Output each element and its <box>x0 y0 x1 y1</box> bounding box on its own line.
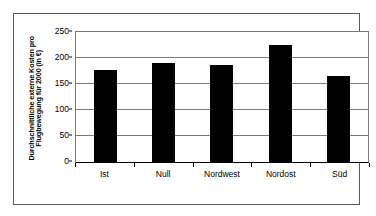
bar-nordost[interactable] <box>269 45 292 162</box>
y-axis-tick-mark <box>69 83 72 84</box>
bar-nordwest[interactable] <box>210 65 233 162</box>
x-axis-tick-label-nordost: Nordost <box>253 169 309 179</box>
chart-figure: Durchschnittliche externe Kosten pro Flu… <box>13 13 360 205</box>
x-axis-tick-mark <box>251 163 252 167</box>
x-axis-tick-mark <box>75 163 76 167</box>
bar-süd[interactable] <box>327 76 350 162</box>
x-axis-tick-labels: IstNullNordwestNordostSüd <box>75 163 369 185</box>
y-axis-tick-label: 50 <box>60 130 69 140</box>
bar-series <box>76 32 368 162</box>
y-axis-tick-mark <box>69 135 72 136</box>
y-axis-tick-label: 100 <box>55 104 69 114</box>
x-axis-tick-label-ist: Ist <box>76 169 132 179</box>
y-axis-tick-mark <box>69 57 72 58</box>
y-axis-tick-label: 250 <box>55 26 69 36</box>
y-axis-tick-label: 150 <box>55 78 69 88</box>
bar-ist[interactable] <box>94 70 117 162</box>
x-axis-tick-mark <box>310 163 311 167</box>
x-axis-tick-label-süd: Süd <box>312 169 368 179</box>
x-axis-tick-label-nordwest: Nordwest <box>194 169 250 179</box>
bar-null[interactable] <box>152 63 175 162</box>
y-axis-tick-mark <box>69 161 72 162</box>
y-axis-tick-labels: 050100150200250 <box>48 14 72 182</box>
x-axis-tick-mark <box>134 163 135 167</box>
y-axis-label: Durchschnittliche externe Kosten pro Flu… <box>22 14 48 182</box>
plot-area <box>75 31 369 163</box>
y-axis-tick-mark <box>69 31 72 32</box>
y-axis-tick-label: 200 <box>55 52 69 62</box>
x-axis-tick-label-null: Null <box>135 169 191 179</box>
y-axis-tick-mark <box>69 109 72 110</box>
x-axis-tick-mark <box>193 163 194 167</box>
x-axis-tick-mark <box>369 163 370 167</box>
y-axis-label-line-2: Flugbewegung für 2000 (in €) <box>35 50 42 147</box>
